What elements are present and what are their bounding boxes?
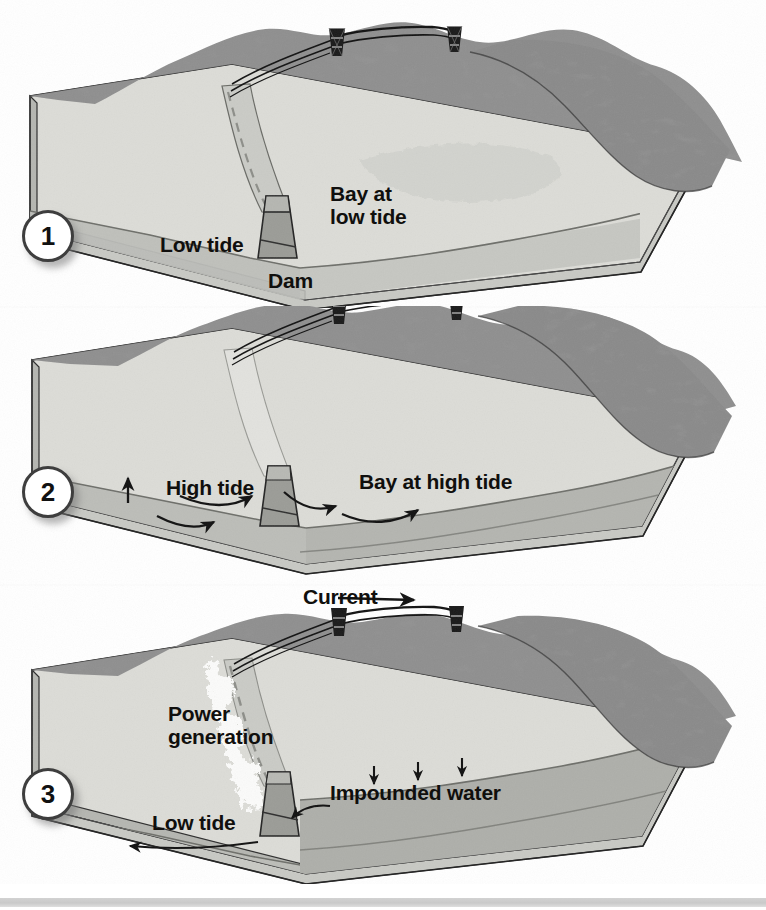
stage-3-illustration xyxy=(0,584,766,884)
step-number-3: 3 xyxy=(22,768,74,820)
label-bay-at-high-tide: Bay at high tide xyxy=(359,471,512,494)
bottom-divider-band xyxy=(0,898,766,907)
panel-stage-1: 1 Bay at low tide Low tide Dam xyxy=(0,0,766,308)
label-impounded-water: Impounded water xyxy=(330,782,501,805)
label-high-tide: High tide xyxy=(166,477,254,500)
step-number-1: 1 xyxy=(22,210,74,262)
stage-2-illustration xyxy=(0,306,766,586)
label-low-tide: Low tide xyxy=(160,234,244,257)
label-current: Current xyxy=(303,586,377,609)
stage-1-illustration xyxy=(0,0,766,308)
label-power-generation: Power generation xyxy=(168,703,273,748)
panel-stage-3: 3 Current Power generation Impounded wat… xyxy=(0,584,766,884)
label-dam: Dam xyxy=(268,270,313,293)
panel-stage-2: 2 High tide Bay at high tide xyxy=(0,306,766,586)
label-low-tide-stage-3: Low tide xyxy=(152,812,236,835)
step-number-2: 2 xyxy=(22,466,74,518)
label-bay-at-low-tide: Bay at low tide xyxy=(330,183,407,228)
